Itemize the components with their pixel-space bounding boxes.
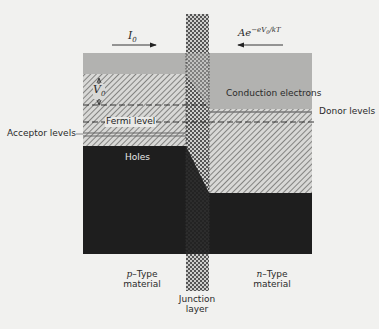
n-hatched-region bbox=[209, 109, 312, 193]
current-i0-label: I0 bbox=[128, 30, 137, 45]
p-conduction-band bbox=[83, 53, 186, 74]
n-conduction-band bbox=[209, 53, 312, 109]
conduction-electrons-label: Conduction electrons bbox=[226, 89, 321, 99]
p-type-material-label: p–Type material bbox=[117, 270, 167, 290]
band-diagram bbox=[0, 0, 379, 329]
donor-levels-label: Donor levels bbox=[319, 107, 375, 117]
current-ae-label: Ae−eV0/kT bbox=[238, 27, 281, 38]
junction-layer-top bbox=[186, 14, 209, 54]
junction-layer-label: Junction layer bbox=[172, 295, 222, 315]
v0-label: V0 bbox=[93, 84, 105, 99]
holes-label: Holes bbox=[125, 153, 150, 163]
junction-layer-bottom bbox=[186, 254, 209, 291]
fermi-level-label: Fermi level bbox=[105, 117, 156, 127]
n-type-material-label: n–Type material bbox=[247, 270, 297, 290]
acceptor-levels-label: Acceptor levels bbox=[7, 129, 76, 139]
